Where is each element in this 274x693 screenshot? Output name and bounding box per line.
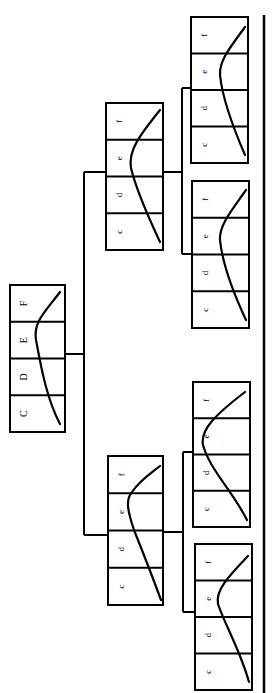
cell-label-f: f (199, 34, 209, 37)
diagram-canvas: CDEFcdefcdefcdefcdefcdefcdef (0, 0, 274, 693)
cell-label-d: d (116, 546, 126, 551)
leaf-1-node: cdef (191, 17, 248, 163)
cell-label-d: d (114, 192, 124, 197)
cell-label-f: f (116, 473, 126, 476)
cell-label-d: d (199, 106, 209, 111)
cell-label-e: e (203, 597, 213, 601)
cell-label-f: f (200, 198, 210, 201)
tree-nodes: CDEFcdefcdefcdefcdefcdefcdef (10, 17, 252, 690)
cell-label-F: F (18, 300, 29, 306)
cell-label-f: f (203, 561, 213, 564)
cell-label-f: f (114, 120, 124, 123)
cell-label-e: e (200, 234, 210, 238)
cell-label-e: e (199, 70, 209, 74)
cell-label-c: c (203, 670, 213, 674)
leaf-2-node: cdef (192, 181, 249, 328)
root-node: CDEF (10, 285, 65, 432)
cell-label-c: c (114, 230, 124, 234)
cell-label-e: e (114, 156, 124, 160)
cell-label-c: c (199, 143, 209, 147)
cell-label-E: E (18, 337, 29, 343)
cell-label-e: e (116, 510, 126, 514)
mid-bottom-node: cdef (108, 456, 163, 605)
cell-label-d: d (203, 633, 213, 638)
cell-label-c: c (201, 507, 211, 511)
cell-label-c: c (116, 584, 126, 588)
cell-label-d: d (200, 270, 210, 275)
leaf-4-node: cdef (195, 544, 252, 690)
cell-label-f: f (201, 399, 211, 402)
cell-label-C: C (18, 410, 29, 417)
leaf-3-node: cdef (193, 382, 250, 527)
mid-top-node: cdef (106, 103, 163, 250)
cell-label-c: c (200, 308, 210, 312)
cell-label-D: D (18, 373, 29, 380)
cell-label-d: d (201, 470, 211, 475)
tree-diagram: CDEFcdefcdefcdefcdefcdefcdef (0, 0, 274, 693)
